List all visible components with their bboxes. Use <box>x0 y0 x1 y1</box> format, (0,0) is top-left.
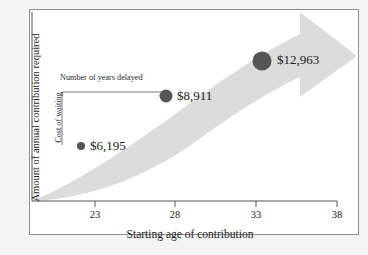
x-tick-label-23: 23 <box>80 209 110 220</box>
chart-figure: $6,195 $8,911 $12,963 Number of years de… <box>0 0 368 255</box>
x-tick-label-38: 38 <box>322 209 352 220</box>
data-point-1 <box>77 142 85 150</box>
data-point-2 <box>160 90 173 103</box>
y-axis-title: Amount of annual contribution required <box>30 23 41 213</box>
data-label-3: $12,963 <box>277 52 319 68</box>
data-point-3 <box>253 52 272 71</box>
annotation-years-delayed: Number of years delayed <box>60 73 143 82</box>
annotation-cost-of-waiting: Cost of waiting <box>54 91 63 145</box>
x-axis-title: Starting age of contribution <box>60 228 320 240</box>
data-label-1: $6,195 <box>90 138 126 154</box>
upward-trend-arrow <box>32 12 357 201</box>
x-tick-label-33: 33 <box>241 209 271 220</box>
data-label-2: $8,911 <box>177 88 212 104</box>
x-tick-label-28: 28 <box>160 209 190 220</box>
